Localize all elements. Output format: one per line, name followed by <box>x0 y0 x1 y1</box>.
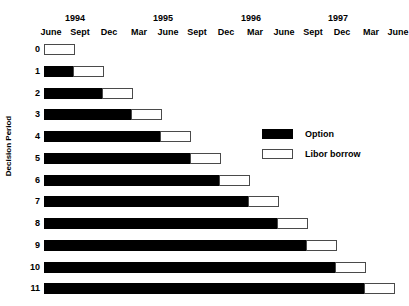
bar-row: 7 <box>0 196 409 207</box>
y-axis-tick-label: 1 <box>20 66 40 77</box>
y-axis-tick-label: 10 <box>20 262 40 273</box>
legend-swatch-libor-icon <box>262 149 293 159</box>
bar-row: 10 <box>0 262 409 273</box>
bar-segment-option <box>44 218 277 229</box>
y-axis-tick-label: 3 <box>20 109 40 120</box>
bar-segment-libor <box>44 44 75 55</box>
bar-row: 6 <box>0 175 409 186</box>
y-axis-tick-label: 4 <box>20 131 40 142</box>
bar-segment-option <box>44 196 248 207</box>
bar-segment-option <box>44 153 190 164</box>
bar-segment-libor <box>219 175 250 186</box>
bar-row: 9 <box>0 240 409 251</box>
y-axis-tick-label: 8 <box>20 218 40 229</box>
bar-segment-option <box>44 109 131 120</box>
legend-label-option: Option <box>305 126 334 142</box>
bar-segment-option <box>44 283 364 294</box>
bar-segment-option <box>44 66 73 77</box>
y-axis-tick-label: 6 <box>20 175 40 186</box>
bar-segment-libor <box>160 131 191 142</box>
y-axis-tick-label: 5 <box>20 153 40 164</box>
bar-row: 8 <box>0 218 409 229</box>
bar-segment-libor <box>190 153 221 164</box>
bar-segment-libor <box>277 218 308 229</box>
bar-row: 2 <box>0 88 409 99</box>
bar-segment-libor <box>364 283 395 294</box>
chart-legend: Option Libor borrow <box>262 126 402 166</box>
y-axis-tick-label: 7 <box>20 196 40 207</box>
bar-segment-libor <box>335 262 366 273</box>
y-axis-tick-label: 2 <box>20 88 40 99</box>
legend-label-libor: Libor borrow <box>305 146 361 162</box>
bar-row: 11 <box>0 283 409 294</box>
gantt-chart: 1994199519961997 JuneSeptDecMarJuneSeptD… <box>0 0 409 306</box>
bar-row: 0 <box>0 44 409 55</box>
bar-segment-option <box>44 175 219 186</box>
y-axis-tick-label: 0 <box>20 44 40 55</box>
legend-item-option: Option <box>262 126 402 146</box>
legend-swatch-option-icon <box>262 129 293 139</box>
bar-segment-libor <box>102 88 133 99</box>
bar-segment-option <box>44 240 306 251</box>
bar-segment-option <box>44 88 102 99</box>
bar-segment-option <box>44 131 160 142</box>
bar-row: 3 <box>0 109 409 120</box>
bar-segment-libor <box>306 240 337 251</box>
bar-segment-libor <box>131 109 162 120</box>
bar-segment-libor <box>248 196 279 207</box>
y-axis-tick-label: 11 <box>20 283 40 294</box>
bar-row: 1 <box>0 66 409 77</box>
legend-item-libor: Libor borrow <box>262 146 402 166</box>
bar-segment-libor <box>73 66 104 77</box>
y-axis-tick-label: 9 <box>20 240 40 251</box>
bar-segment-option <box>44 262 335 273</box>
